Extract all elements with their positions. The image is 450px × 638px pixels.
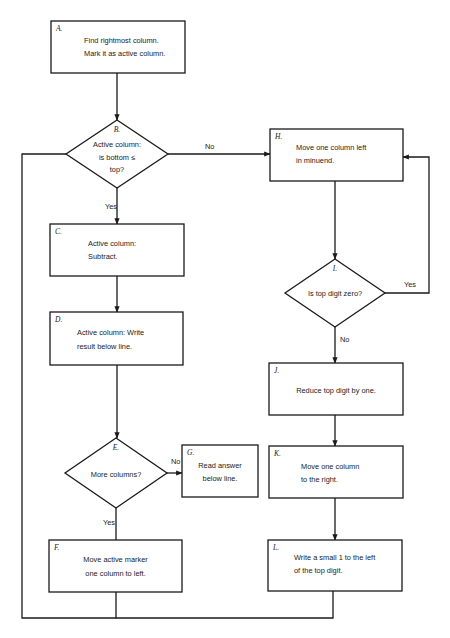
node-text-line: one column to left.	[85, 569, 145, 578]
node-letter: K.	[273, 449, 281, 458]
node-text-line: More columns?	[91, 470, 142, 479]
node-text-line: Find rightmost column.	[84, 36, 159, 45]
node-text-line: Move one column left	[296, 143, 366, 152]
node-text-line: Mark it as active column.	[84, 49, 165, 58]
process-box	[50, 224, 184, 276]
node-letter: G.	[187, 448, 194, 457]
node-text-line: in minuend.	[296, 156, 334, 165]
node-text-line: Active column:	[93, 140, 141, 149]
node-c: C.Active column:Subtract.	[50, 224, 184, 276]
node-text-line: Reduce top digit by one.	[296, 386, 376, 395]
edge-label-yes: Yes	[105, 202, 117, 211]
process-box	[50, 312, 183, 365]
node-k: K.Move one columnto the right.	[269, 446, 403, 498]
node-text-line: Move active marker	[83, 555, 148, 564]
node-letter: E.	[112, 443, 120, 452]
flowchart: A.Find rightmost column.Mark it as activ…	[0, 0, 450, 638]
node-text-line: Move one column	[301, 462, 359, 471]
node-letter: F.	[53, 543, 60, 552]
node-text-line: Active column:	[88, 239, 136, 248]
node-text-line: result below line.	[77, 342, 132, 351]
node-b: B.Active column:is bottom ≤top?	[66, 120, 168, 188]
node-text-line: Write a small 1 to the left	[294, 553, 375, 562]
edge-label-no: No	[171, 457, 180, 466]
node-text-line: top?	[110, 165, 124, 174]
node-j: J.Reduce top digit by one.	[269, 363, 403, 415]
node-letter: I.	[332, 264, 337, 273]
edge-l-to-b	[116, 591, 333, 618]
node-a: A.Find rightmost column.Mark it as activ…	[51, 21, 185, 73]
node-i: I.Is top digit zero?	[285, 259, 385, 327]
edge-label-yes: Yes	[404, 280, 416, 289]
process-box	[51, 21, 185, 73]
edge-label-no: No	[205, 142, 214, 151]
node-e: E.More columns?	[65, 438, 167, 508]
node-letter: J.	[274, 366, 279, 375]
node-g: G.Read answerbelow line.	[182, 445, 258, 497]
node-text-line: Is top digit zero?	[308, 289, 362, 298]
node-letter: L.	[272, 543, 279, 552]
node-d: D.Active column: Writeresult below line.	[50, 312, 183, 365]
node-letter: B.	[114, 125, 121, 134]
node-f: F.Move active markerone column to left.	[49, 540, 182, 592]
nodes: A.Find rightmost column.Mark it as activ…	[49, 21, 403, 592]
node-text-line: is bottom ≤	[99, 153, 135, 162]
node-letter: C.	[55, 227, 62, 236]
process-box	[269, 446, 403, 498]
node-text-line: to the right.	[301, 475, 338, 484]
node-letter: D.	[54, 315, 62, 324]
process-box	[49, 540, 182, 592]
process-box	[270, 129, 403, 181]
node-letter: H.	[274, 132, 282, 141]
node-h: H.Move one column leftin minuend.	[270, 129, 403, 181]
node-text-line: of the top digit.	[294, 566, 342, 575]
node-text-line: Read answer	[198, 461, 242, 470]
edge-label-no: No	[340, 335, 349, 344]
node-text-line: Active column: Write	[77, 328, 144, 337]
edge-label-yes: Yes	[103, 518, 115, 527]
node-text-line: below line.	[203, 474, 238, 483]
node-letter: A.	[55, 24, 63, 33]
node-l: L.Write a small 1 to the leftof the top …	[268, 540, 402, 591]
node-text-line: Subtract.	[88, 252, 118, 261]
